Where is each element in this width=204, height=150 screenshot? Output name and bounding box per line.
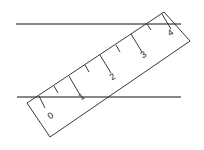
tick-label-4: 4 xyxy=(166,27,176,38)
ruler-diagram: 0 1 2 3 4 xyxy=(0,0,204,150)
tick-label-0: 0 xyxy=(46,110,56,121)
ruler-ticks xyxy=(39,14,171,108)
tick-label-2: 2 xyxy=(108,71,118,82)
tick-label-3: 3 xyxy=(139,49,149,60)
